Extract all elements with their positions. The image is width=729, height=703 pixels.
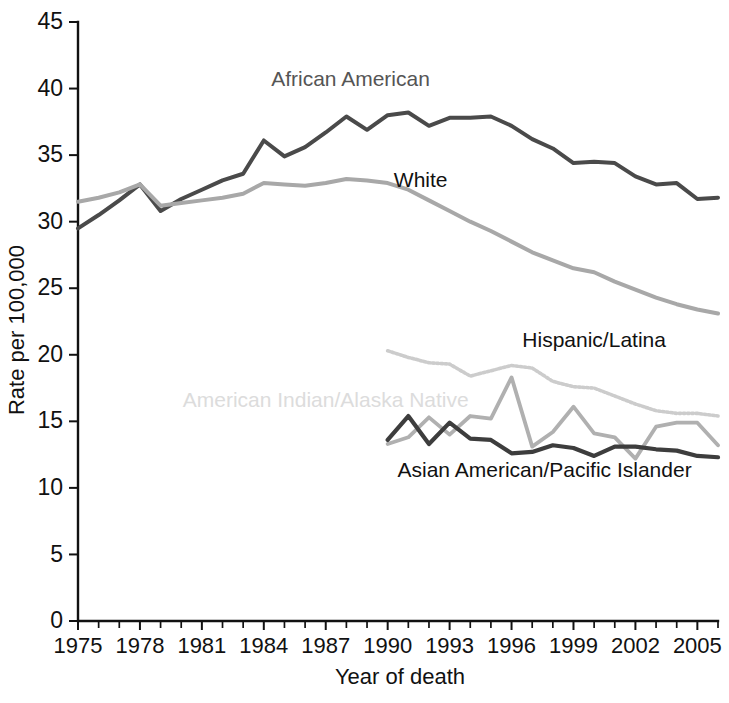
y-tick-label: 15 [37,407,63,433]
x-tick-label: 1975 [54,633,103,658]
series-label-hispanic-latina: Hispanic/Latina [522,328,666,351]
x-tick-label: 1981 [177,633,226,658]
x-tick-label: 1978 [115,633,164,658]
x-axis-ticks [78,621,718,630]
x-axis-title: Year of death [335,664,465,689]
y-tick-label: 20 [37,341,63,367]
y-tick-label: 5 [50,541,63,567]
x-axis-tick-labels: 1975197819811984198719901993199619992002… [54,633,722,658]
series-labels-group: African AmericanWhiteHispanic/LatinaAmer… [183,67,692,481]
x-tick-label: 1999 [549,633,598,658]
line-chart: 051015202530354045 197519781981198419871… [0,0,729,703]
series-label-african-american: African American [271,67,430,90]
y-tick-label: 45 [37,8,63,34]
series-label-white: White [394,168,448,191]
series-label-american-indian-alaska-native: American Indian/Alaska Native [183,388,469,411]
y-tick-label: 10 [37,474,63,500]
y-tick-label: 0 [50,607,63,633]
y-axis-tick-labels: 051015202530354045 [37,8,63,633]
series-label-asian-american-pacific-islander: Asian American/Pacific Islander [398,458,692,481]
series-line-white [78,179,718,313]
x-tick-label: 1990 [363,633,412,658]
y-tick-label: 25 [37,274,63,300]
y-tick-label: 40 [37,75,63,101]
chart-container: 051015202530354045 197519781981198419871… [0,0,729,703]
y-axis-title: Rate per 100,000 [4,245,29,415]
y-axis-ticks [69,22,78,621]
x-tick-label: 2005 [673,633,722,658]
x-tick-label: 1993 [425,633,474,658]
y-tick-label: 35 [37,141,63,167]
x-tick-label: 1996 [487,633,536,658]
x-tick-label: 1984 [239,633,288,658]
x-tick-label: 2002 [611,633,660,658]
y-tick-label: 30 [37,208,63,234]
x-tick-label: 1987 [301,633,350,658]
